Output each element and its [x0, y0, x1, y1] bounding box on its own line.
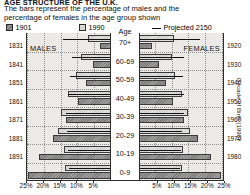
legend-label-projected: Projected 2150: [164, 23, 212, 32]
x-axis-tick-mark: [93, 181, 94, 183]
x-axis-tick-mark: [174, 181, 175, 183]
legend-item-projected: Projected 2150: [152, 23, 212, 32]
x-axis-tick-mark: [43, 181, 44, 183]
x-axis-tick: 10%: [167, 182, 180, 189]
plot-area: Age 70+60-6950-5940-4930-3920-2910-190-9: [26, 33, 224, 181]
right-year-tick: 1930: [227, 60, 241, 67]
legend-item-1901: 1901: [6, 23, 32, 32]
left-year-tick: 1881: [9, 134, 23, 141]
left-year-tick: 1871: [9, 116, 23, 123]
right-axis-title: Decade of Birth (1990): [236, 78, 243, 140]
males-side-label: MALES: [30, 44, 57, 53]
x-axis-tick: 5%: [152, 182, 161, 189]
legend-swatch-projected-icon: [152, 28, 161, 29]
right-year-tick: 1950: [227, 97, 241, 104]
legend-swatch-1901-icon: [6, 24, 13, 31]
age-label-20-29: 20-29: [111, 130, 139, 139]
x-axis-tick: 15%: [53, 182, 66, 189]
age-label-gutter: Age 70+60-6950-5940-4930-3920-2910-190-9: [110, 33, 140, 180]
x-axis-tick: 20%: [201, 182, 214, 189]
right-year-tick: 1970: [227, 134, 241, 141]
age-label-50-59: 50-59: [111, 75, 139, 84]
x-axis-tick: 5%: [89, 182, 98, 189]
left-year-tick: 1841: [9, 60, 23, 67]
age-label-30-39: 30-39: [111, 112, 139, 121]
left-year-tick: 1861: [9, 97, 23, 104]
left-year-tick: 1851: [9, 79, 23, 86]
left-year-tick: 1831: [9, 42, 23, 49]
x-axis-tick: 15%: [184, 182, 197, 189]
age-structure-chart: AGE STRUCTURE OF THE U.K. The bars repre…: [0, 0, 250, 195]
right-year-tick: 1980: [227, 153, 241, 160]
legend-swatch-1990-icon: [79, 24, 86, 31]
x-axis-tick: 25%: [20, 182, 33, 189]
legend-label-1901: 1901: [16, 23, 32, 32]
age-label-40-49: 40-49: [111, 93, 139, 102]
x-axis-tick: 10%: [70, 182, 83, 189]
right-year-tick: 1920: [227, 42, 241, 49]
x-axis-tick-mark: [26, 181, 27, 183]
right-year-tick: 1940: [227, 79, 241, 86]
age-label-60-69: 60-69: [111, 56, 139, 65]
chart-subtitle: The bars represent the percentage of mal…: [4, 5, 219, 22]
x-axis-tick-mark: [157, 181, 158, 183]
left-year-tick: 1891: [9, 153, 23, 160]
x-axis-tick: 20%: [36, 182, 49, 189]
legend-label-1990: 1990: [89, 23, 105, 32]
x-axis-tick-mark: [207, 181, 208, 183]
females-side-label: FEMALES: [183, 44, 220, 53]
age-label-70plus: 70+: [111, 38, 139, 47]
x-axis-tick-mark: [224, 181, 225, 183]
x-axis-tick: 25%: [218, 182, 231, 189]
x-axis-tick-mark: [190, 181, 191, 183]
age-axis-header: Age: [111, 27, 139, 36]
age-label-0-9: 0-9: [111, 167, 139, 176]
right-year-tick: 1960: [227, 116, 241, 123]
age-label-10-19: 10-19: [111, 149, 139, 158]
x-axis-tick-mark: [60, 181, 61, 183]
x-axis-tick-mark: [76, 181, 77, 183]
legend-item-1990: 1990: [79, 23, 105, 32]
